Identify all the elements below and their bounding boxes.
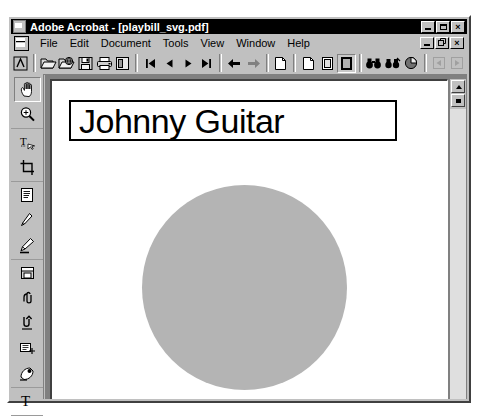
find-icon[interactable] (365, 54, 384, 73)
text-select-tool-icon[interactable]: T (14, 130, 41, 155)
acrobat-logo-icon[interactable] (13, 20, 26, 33)
menu-item-document[interactable]: Document (95, 36, 157, 50)
toolbar-separator (293, 54, 296, 72)
page-setup-icon[interactable] (114, 54, 133, 73)
svg-text:T: T (21, 393, 30, 409)
note-tool-icon[interactable] (14, 183, 41, 208)
svg-text:T: T (20, 135, 27, 147)
tool-group-navigation (11, 76, 43, 129)
application-window: Adobe Acrobat - [playbill_svg.pdf] × Fil… (7, 15, 471, 403)
hand-tool-icon[interactable] (14, 77, 41, 102)
search-previous-icon[interactable] (430, 54, 449, 73)
web-capture-icon[interactable] (402, 54, 421, 73)
toolbar-separator (219, 54, 222, 72)
fit-width-icon[interactable] (318, 54, 337, 73)
search-next-icon[interactable] (448, 54, 467, 73)
menu-item-file[interactable]: File (34, 36, 64, 50)
previous-page-icon[interactable] (160, 54, 179, 73)
attach-tool-icon[interactable] (14, 286, 41, 311)
page-title: Johnny Guitar (71, 104, 284, 138)
stamp-tool-icon[interactable] (14, 261, 41, 286)
mdi-close-icon: × (454, 38, 459, 48)
document-icon[interactable] (14, 36, 29, 51)
pdf-page[interactable]: Johnny Guitar (50, 79, 448, 399)
close-button[interactable]: × (451, 21, 465, 33)
actual-size-icon[interactable] (272, 54, 291, 73)
menu-item-window[interactable]: Window (230, 36, 281, 50)
go-back-icon[interactable] (225, 54, 244, 73)
fit-page-icon[interactable] (299, 54, 318, 73)
open-web-icon[interactable] (57, 54, 76, 73)
tool-palette: T (11, 74, 44, 399)
toolbar-separator (266, 54, 269, 72)
pencil-tool-icon[interactable] (14, 208, 41, 233)
menu-item-help[interactable]: Help (281, 36, 316, 50)
tool-group-selection: T (11, 129, 43, 182)
search-icon[interactable] (383, 54, 402, 73)
maximize-button[interactable] (436, 21, 450, 33)
mdi-restore-button[interactable] (435, 37, 449, 49)
movie-tool-icon[interactable] (14, 361, 41, 386)
menu-item-edit[interactable]: Edit (64, 36, 95, 50)
vertical-scrollbar[interactable] (449, 79, 466, 399)
form-tool-icon[interactable] (14, 336, 41, 361)
close-icon: × (455, 22, 460, 32)
crop-tool-icon[interactable] (14, 155, 41, 180)
menu-item-tools[interactable]: Tools (157, 36, 195, 50)
mdi-window-controls: × (420, 37, 464, 49)
window-title: Adobe Acrobat - [playbill_svg.pdf] (30, 21, 421, 33)
highlight-tool-icon[interactable] (14, 233, 41, 258)
go-forward-icon[interactable] (244, 54, 263, 73)
toolbar-separator (424, 54, 427, 72)
next-page-icon[interactable] (179, 54, 198, 73)
menu-item-view[interactable]: View (195, 36, 231, 50)
scroll-box-icon[interactable] (451, 94, 465, 107)
last-page-icon[interactable] (197, 54, 216, 73)
scroll-up-icon[interactable] (451, 80, 465, 93)
acrobat-logo-icon[interactable] (11, 54, 30, 73)
scroll-track[interactable] (450, 109, 466, 399)
tool-group-article: T (11, 388, 43, 416)
print-icon[interactable] (95, 54, 114, 73)
document-client-area: Johnny Guitar (45, 75, 467, 399)
text-tool-icon[interactable]: T (14, 389, 41, 414)
toolbar-separator (359, 54, 362, 72)
toolbar-separator (135, 54, 138, 72)
tool-group-stamps (11, 260, 43, 388)
menu-bar: File Edit Document Tools View Window Hel… (11, 35, 467, 51)
toolbar-separator (33, 54, 36, 72)
link-tool-icon[interactable] (14, 311, 41, 336)
title-bar: Adobe Acrobat - [playbill_svg.pdf] × (11, 19, 467, 34)
window-controls: × (421, 21, 465, 33)
save-icon[interactable] (76, 54, 95, 73)
heading-box: Johnny Guitar (69, 100, 397, 141)
mdi-close-button[interactable]: × (450, 37, 464, 49)
gray-circle (142, 185, 347, 390)
open-folder-icon[interactable] (39, 54, 58, 73)
fit-visible-icon[interactable] (337, 54, 356, 73)
first-page-icon[interactable] (141, 54, 160, 73)
minimize-button[interactable] (421, 21, 435, 33)
page-canvas: Johnny Guitar (52, 81, 447, 399)
tool-group-annotation (11, 182, 43, 260)
main-toolbar (11, 52, 467, 75)
mdi-minimize-button[interactable] (420, 37, 434, 49)
zoom-tool-icon[interactable] (14, 102, 41, 127)
